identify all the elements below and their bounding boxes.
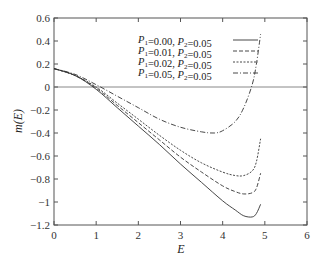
y-tick-label: 0.6 [36, 12, 50, 24]
y-axis-label: m(E) [11, 109, 25, 133]
x-tick-label: 6 [304, 229, 310, 241]
y-tick-label: −1 [38, 196, 50, 208]
x-axis-label: E [176, 242, 185, 256]
x-tick-label: 2 [136, 229, 142, 241]
y-tick-label: −0.6 [30, 150, 50, 162]
y-tick-label: 0 [45, 81, 51, 93]
x-tick-label: 1 [93, 229, 99, 241]
x-tick-label: 4 [220, 229, 226, 241]
x-tick-label: 3 [178, 229, 184, 241]
y-tick-label: −0.2 [30, 104, 50, 116]
y-tick-label: −0.8 [30, 173, 50, 185]
y-tick-label: 0.2 [36, 58, 50, 70]
y-tick-label: −1.2 [30, 219, 50, 231]
y-tick-label: −0.4 [30, 127, 50, 139]
x-tick-label: 5 [262, 229, 268, 241]
y-tick-label: 0.4 [36, 35, 50, 47]
line-chart: 01234560.60.40.20−0.2−0.4−0.6−0.8−1−1.2 … [0, 0, 323, 265]
x-tick-label: 0 [51, 229, 57, 241]
